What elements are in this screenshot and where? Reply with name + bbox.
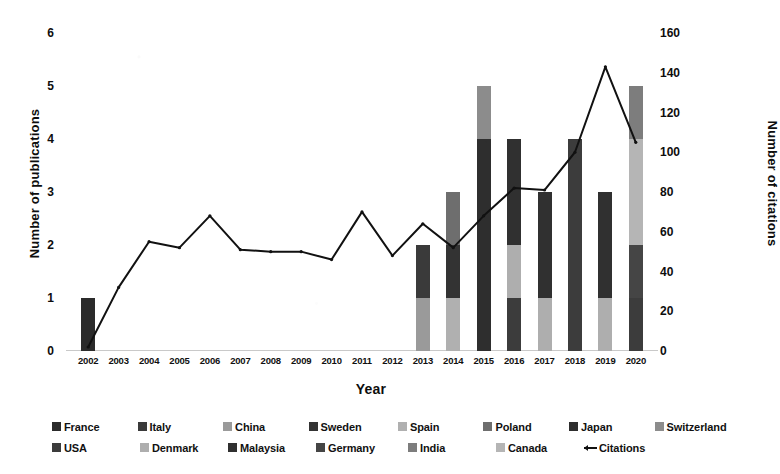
legend-label: Poland [495, 421, 531, 433]
legend-label: Malaysia [240, 442, 285, 454]
bar-slot [347, 33, 377, 351]
legend-swatch-icon [655, 422, 664, 431]
legend-label: China [235, 421, 265, 433]
bar-segment[interactable] [629, 86, 643, 139]
x-tick-label: 2013 [408, 355, 438, 373]
legend-item-china[interactable]: China [223, 421, 309, 433]
bar-segment[interactable] [629, 139, 643, 245]
y-tick-right: 20 [660, 306, 704, 316]
y-tick-right: 0 [660, 346, 704, 356]
legend-swatch-icon [483, 422, 492, 431]
x-axis-ticks: 2002200320042005200620072008200920102011… [73, 355, 651, 373]
bar-segment[interactable] [568, 139, 582, 351]
legend-swatch-icon [309, 422, 318, 431]
x-tick-label: 2015 [468, 355, 498, 373]
bar-slot [408, 33, 438, 351]
legend-swatch-icon [496, 443, 505, 452]
x-tick-label: 2016 [499, 355, 529, 373]
bar-segment[interactable] [446, 192, 460, 245]
legend-swatch-icon [52, 443, 61, 452]
legend-item-france[interactable]: France [52, 421, 138, 433]
legend-swatch-icon [138, 422, 147, 431]
legend-label: Canada [508, 442, 547, 454]
bar-slot [468, 33, 498, 351]
bar-slot [195, 33, 225, 351]
bar-slot [438, 33, 468, 351]
legend-label: Spain [410, 421, 439, 433]
bar-segment[interactable] [538, 298, 552, 351]
legend-item-usa[interactable]: USA [52, 442, 140, 454]
y-tick-left: 0 [14, 346, 54, 356]
y-tick-right: 120 [660, 108, 704, 118]
bar-series-group [73, 33, 651, 351]
bar-segment[interactable] [446, 298, 460, 351]
x-tick-label: 2002 [73, 355, 103, 373]
legend-item-sweden[interactable]: Sweden [309, 421, 398, 433]
x-tick-label: 2007 [225, 355, 255, 373]
legend-item-poland[interactable]: Poland [483, 421, 569, 433]
legend-item-spain[interactable]: Spain [398, 421, 484, 433]
bar-slot [73, 33, 103, 351]
bar-stack[interactable] [568, 139, 582, 351]
y-axis-right-title: Number of citations [765, 84, 780, 284]
legend-item-india[interactable]: India [408, 442, 496, 454]
bar-segment[interactable] [507, 298, 521, 351]
legend-label: India [420, 442, 445, 454]
legend-item-switzerland[interactable]: Switzerland [655, 421, 742, 433]
bar-stack[interactable] [507, 139, 521, 351]
legend-item-japan[interactable]: Japan [569, 421, 655, 433]
legend-label: Japan [581, 421, 612, 433]
legend-item-italy[interactable]: Italy [138, 421, 224, 433]
legend-row: USADenmarkMalaysiaGermanyIndiaCanadaCita… [52, 437, 742, 458]
bar-segment[interactable] [598, 298, 612, 351]
bar-stack[interactable] [629, 86, 643, 351]
bar-segment[interactable] [538, 192, 552, 298]
bar-slot [590, 33, 620, 351]
x-tick-label: 2019 [590, 355, 620, 373]
bar-segment[interactable] [446, 245, 460, 298]
bar-slot [134, 33, 164, 351]
bar-slot [499, 33, 529, 351]
bar-segment[interactable] [81, 298, 95, 351]
y-tick-left: 3 [14, 187, 54, 197]
y-tick-right: 100 [660, 147, 704, 157]
bar-segment[interactable] [477, 139, 491, 351]
bar-stack[interactable] [416, 245, 430, 351]
bar-segment[interactable] [416, 298, 430, 351]
legend-item-malaysia[interactable]: Malaysia [228, 442, 316, 454]
bar-slot [164, 33, 194, 351]
y-tick-left: 5 [14, 81, 54, 91]
x-tick-label: 2012 [377, 355, 407, 373]
bar-stack[interactable] [538, 192, 552, 351]
legend-item-citations[interactable]: Citations [584, 442, 672, 454]
legend-swatch-icon [569, 422, 578, 431]
x-axis-title: Year [286, 381, 456, 397]
legend-swatch-icon [140, 443, 149, 452]
bar-segment[interactable] [629, 245, 643, 298]
y-tick-left: 6 [14, 28, 54, 38]
y-tick-left: 2 [14, 240, 54, 250]
legend-item-germany[interactable]: Germany [316, 442, 408, 454]
bar-stack[interactable] [598, 192, 612, 351]
bar-segment[interactable] [416, 245, 430, 298]
bar-segment[interactable] [477, 86, 491, 139]
legend-label: Denmark [152, 442, 198, 454]
legend-label: Sweden [321, 421, 362, 433]
x-tick-label: 2006 [195, 355, 225, 373]
bar-slot [377, 33, 407, 351]
legend-label: USA [64, 442, 87, 454]
legend-row: FranceItalyChinaSwedenSpainPolandJapanSw… [52, 416, 742, 437]
legend-item-denmark[interactable]: Denmark [140, 442, 228, 454]
bar-stack[interactable] [81, 298, 95, 351]
legend-item-canada[interactable]: Canada [496, 442, 584, 454]
x-tick-label: 2003 [103, 355, 133, 373]
bar-stack[interactable] [446, 192, 460, 351]
bar-segment[interactable] [507, 245, 521, 298]
legend-swatch-icon [408, 443, 417, 452]
bar-segment[interactable] [598, 192, 612, 298]
bar-stack[interactable] [477, 86, 491, 351]
bar-segment[interactable] [629, 298, 643, 351]
bar-segment[interactable] [507, 139, 521, 245]
y-tick-right: 40 [660, 267, 704, 277]
bar-slot [225, 33, 255, 351]
